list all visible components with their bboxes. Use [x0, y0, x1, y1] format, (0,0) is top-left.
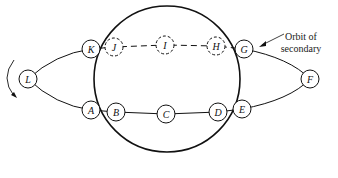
binary-orbit-diagram: Orbit of secondary ABCDEFGHIJKL — [0, 0, 338, 178]
rotation-arrow-icon — [7, 60, 14, 96]
node-label: K — [87, 44, 96, 55]
node-label: F — [306, 74, 314, 85]
node-c: C — [157, 105, 175, 123]
node-b: B — [107, 103, 125, 121]
node-k: K — [82, 40, 100, 58]
orbit-path-upper-left — [28, 49, 91, 79]
node-h: H — [207, 37, 225, 55]
node-d: D — [209, 103, 227, 121]
node-label: G — [240, 44, 247, 55]
node-label: E — [238, 104, 245, 115]
node-e: E — [233, 100, 251, 118]
node-label: J — [112, 42, 117, 53]
annotation-line2: secondary — [281, 43, 322, 54]
node-label: L — [24, 74, 31, 85]
node-label: A — [87, 105, 95, 116]
node-label: H — [211, 41, 220, 52]
node-l: L — [19, 70, 37, 88]
node-f: F — [301, 70, 319, 88]
node-label: C — [163, 109, 170, 120]
primary-star — [94, 6, 240, 152]
node-label: B — [113, 107, 119, 118]
node-label: I — [162, 40, 167, 51]
node-j: J — [105, 38, 123, 56]
annotation-line1: Orbit of — [285, 31, 318, 42]
node-label: D — [213, 107, 222, 118]
annotation-arrowhead-icon — [259, 41, 266, 47]
node-a: A — [82, 101, 100, 119]
node-g: G — [235, 40, 253, 58]
node-i: I — [156, 36, 174, 54]
